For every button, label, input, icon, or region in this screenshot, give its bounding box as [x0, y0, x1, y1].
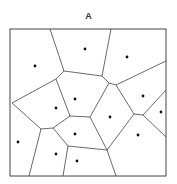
cell-edge — [53, 128, 68, 146]
site-point — [142, 95, 145, 98]
cell-edge — [64, 71, 102, 76]
cell-edge — [68, 146, 107, 150]
site-point — [84, 48, 87, 51]
cell-edge — [56, 71, 64, 79]
site-point — [17, 141, 20, 144]
cell-edge — [109, 83, 116, 85]
cell-edge — [29, 129, 41, 176]
diagram-frame — [10, 29, 166, 176]
cell-edge — [143, 90, 166, 115]
cell-edge — [116, 61, 166, 85]
cell-edge — [143, 115, 166, 137]
cell-edge — [70, 116, 90, 117]
cell-edge — [12, 103, 41, 129]
cell-edge — [102, 29, 111, 76]
cell-edge — [50, 29, 64, 71]
cell-edge — [107, 114, 134, 150]
cell-edge — [116, 85, 134, 114]
site-point — [34, 65, 37, 68]
cell-edge — [90, 83, 109, 117]
cell-edge — [53, 116, 70, 128]
cell-edge — [102, 76, 109, 83]
voronoi-diagram — [0, 0, 177, 184]
site-point — [137, 134, 140, 137]
site-point — [55, 153, 58, 156]
site-point — [160, 111, 163, 114]
site-point — [74, 98, 77, 101]
site-point — [126, 56, 129, 59]
cell-edge — [41, 128, 53, 129]
site-point — [74, 133, 77, 136]
cell-edge — [107, 150, 116, 176]
site-point — [55, 107, 58, 110]
cell-edge — [90, 117, 107, 150]
site-point — [76, 160, 79, 163]
cell-edge — [63, 146, 68, 176]
cell-edge — [56, 79, 70, 116]
cell-edge — [12, 79, 56, 103]
site-point — [109, 116, 112, 119]
cell-edge — [134, 114, 143, 115]
